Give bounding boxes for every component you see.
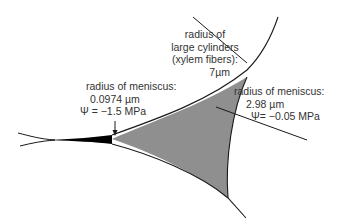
large-cylinder-label: radius of large cylinders (xylem fibers)… — [160, 28, 250, 66]
large-cylinder-label-line2: large cylinders — [160, 41, 250, 54]
small-meniscus-label: radius of meniscus: 0.0974 µm — [86, 80, 176, 105]
left-upper-cylinder-edge — [18, 133, 55, 140]
left-lower-cylinder-edge — [20, 140, 55, 146]
large-cylinder-label-line1: radius of — [160, 28, 250, 41]
xylem-meniscus-diagram: radius of large cylinders (xylem fibers)… — [0, 0, 343, 224]
small-meniscus-water-potential: Ψ = −1.5 MPa — [80, 105, 146, 118]
large-meniscus-water-potential: Ψ= −0.05 MPa — [251, 110, 320, 123]
small-meniscus-title: radius of meniscus: — [86, 80, 176, 93]
large-cylinder-label-line3: (xylem fibers): — [160, 53, 250, 66]
large-meniscus-radius: 2.98 µm — [234, 98, 324, 111]
large-meniscus-title: radius of meniscus: — [234, 85, 324, 98]
large-cylinder-radius-value: 7µm — [200, 66, 230, 79]
large-meniscus-label: radius of meniscus: 2.98 µm — [234, 85, 324, 110]
narrow-wedge — [50, 135, 112, 144]
small-meniscus-radius: 0.0974 µm — [86, 93, 176, 106]
